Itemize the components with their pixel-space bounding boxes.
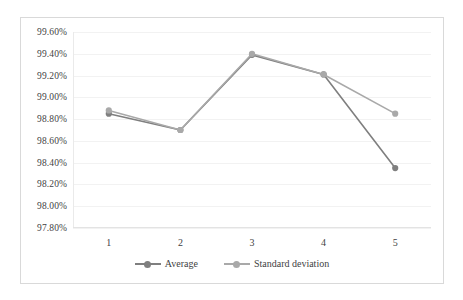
legend-entry[interactable]: Average <box>135 258 198 269</box>
series-line <box>109 55 395 168</box>
gridline <box>73 228 431 229</box>
series-line <box>109 54 395 130</box>
legend-label: Average <box>165 258 198 269</box>
chart-legend: AverageStandard deviation <box>21 258 443 269</box>
chart-container: 99.60%99.40%99.20%99.00%98.80%98.60%98.4… <box>20 17 444 284</box>
y-axis-tick-label: 99.60% <box>37 27 67 37</box>
y-axis-tick-label: 98.60% <box>37 136 67 146</box>
legend-entry[interactable]: Standard deviation <box>224 258 329 269</box>
y-axis-tick-label: 99.00% <box>37 92 67 102</box>
series-layer <box>73 32 431 228</box>
y-axis-tick-label: 99.40% <box>37 49 67 59</box>
plot-area: 99.60%99.40%99.20%99.00%98.80%98.60%98.4… <box>73 32 431 228</box>
data-point <box>321 71 327 77</box>
x-axis-tick-label: 1 <box>106 237 111 248</box>
series-standard-deviation <box>106 51 399 133</box>
x-axis-tick-label: 4 <box>321 237 326 248</box>
y-axis-tick-label: 99.20% <box>37 71 67 81</box>
legend-swatch-icon <box>135 259 161 268</box>
legend-label: Standard deviation <box>254 258 329 269</box>
data-point <box>249 51 255 57</box>
x-axis-tick-label: 5 <box>393 237 398 248</box>
y-axis-tick-label: 98.20% <box>37 179 67 189</box>
y-axis-tick-label: 98.00% <box>37 201 67 211</box>
x-axis-tick-label: 3 <box>250 237 255 248</box>
data-point <box>392 111 398 117</box>
data-point <box>177 127 183 133</box>
data-point <box>106 107 112 113</box>
y-axis-tick-label: 98.80% <box>37 114 67 124</box>
legend-swatch-icon <box>224 259 250 268</box>
data-point <box>392 165 398 171</box>
y-axis-tick-label: 98.40% <box>37 158 67 168</box>
x-axis-tick-label: 2 <box>178 237 183 248</box>
series-average <box>106 52 399 171</box>
y-axis-tick-label: 97.80% <box>37 223 67 233</box>
